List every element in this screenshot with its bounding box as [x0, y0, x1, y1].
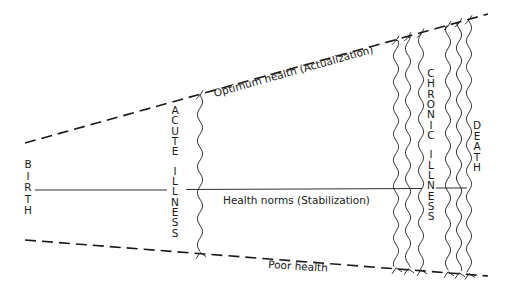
label-letter: E — [172, 145, 179, 157]
acute-illness-wave — [197, 95, 202, 251]
wave-top-hook — [444, 21, 451, 30]
label-letter: S — [172, 227, 179, 239]
label-letter: C — [427, 129, 434, 141]
label-letter: B — [24, 158, 31, 170]
chronic-illness-wave — [418, 34, 423, 270]
health-norms-label: Health norms (Stabilization) — [223, 194, 370, 206]
label-letter: R — [24, 181, 31, 193]
health-norms-line — [35, 188, 467, 190]
health-continuum-diagram: Optimum health (Actualization) Health no… — [0, 0, 510, 291]
chronic-illness-wave — [456, 23, 461, 271]
label-letter: H — [24, 204, 32, 216]
birth-label: BIRTH — [24, 158, 32, 216]
label-letter: I — [26, 170, 29, 182]
chronic-illness-wave — [445, 26, 450, 270]
poor-health-label: Poor health — [268, 258, 328, 274]
death-label: DEATH — [473, 119, 482, 173]
acute-illness-label: ACUTEILLNESS — [171, 104, 180, 239]
chronic-illness-label: CHRONICILLNESS — [427, 67, 435, 222]
label-letter: T — [24, 193, 32, 205]
optimum-health-label: Optimum health (Actualization) — [212, 43, 374, 99]
label-letter: S — [428, 210, 435, 222]
label-letter: H — [473, 161, 481, 173]
chronic-illness-wave — [405, 37, 410, 267]
chronic-illness-wave — [466, 20, 471, 272]
poor-health-line — [25, 240, 488, 276]
chronic-illness-wave — [393, 41, 398, 267]
